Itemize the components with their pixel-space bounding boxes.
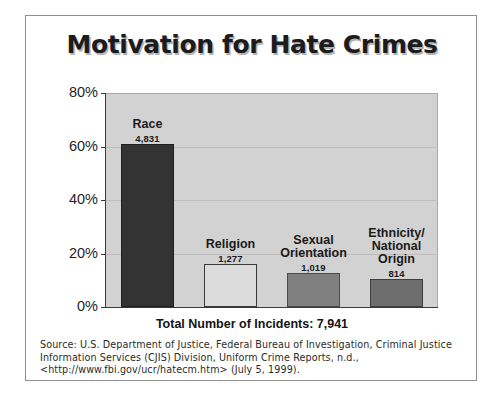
source-note: Source: U.S. Department of Justice, Fede… <box>40 339 464 377</box>
bar-label-1: Race4,831 <box>88 118 208 145</box>
y-tick-label: 0% <box>38 298 98 314</box>
bar-label-4: Ethnicity/NationalOrigin814 <box>337 227 457 280</box>
x-axis-line <box>105 307 438 308</box>
y-tick-label: 80% <box>38 84 98 100</box>
y-tick-label: 40% <box>38 191 98 207</box>
bar-value-4: 814 <box>337 267 457 280</box>
bar-label-line: Race <box>88 118 208 131</box>
page-title: Motivation for Hate Crimes <box>26 30 478 59</box>
y-tick-label: 20% <box>38 245 98 261</box>
chart-figure-frame: Motivation for Hate Crimes 80%60%40%20%0… <box>25 15 477 381</box>
y-tick-mark <box>101 307 106 308</box>
bar-label-line: Origin <box>337 253 457 266</box>
bar-value-1: 4,831 <box>88 132 208 145</box>
bar-1 <box>121 144 174 307</box>
total-incidents-label: Total Number of Incidents: 7,941 <box>26 317 478 331</box>
bar-4 <box>370 279 423 307</box>
chart-plot-wrapper: 80%60%40%20%0% Race4,831Religion1,277Sex… <box>106 93 438 307</box>
bar-2 <box>204 264 257 307</box>
y-tick-mark <box>101 93 106 94</box>
bar-3 <box>287 273 340 307</box>
